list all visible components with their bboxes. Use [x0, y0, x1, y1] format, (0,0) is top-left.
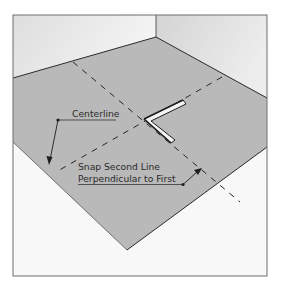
floor-layout-diagram: Centerline Snap Second Line Perpendicula…	[0, 0, 282, 292]
perpendicular-to-first-label: Perpendicular to First	[78, 173, 176, 184]
centerline-label: Centerline	[72, 108, 120, 119]
snap-second-line-label: Snap Second Line	[78, 161, 160, 172]
